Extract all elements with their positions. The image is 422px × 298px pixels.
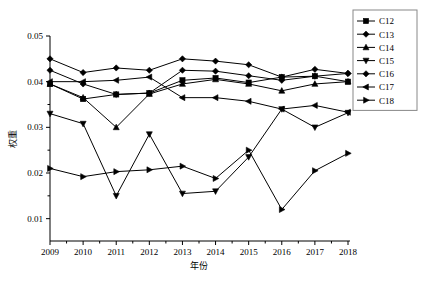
data-point-marker: [80, 69, 86, 75]
y-tick-label: 0.03: [27, 122, 43, 132]
series-line-c16: [50, 70, 348, 94]
series-c17: [47, 74, 351, 115]
data-point-marker: [146, 67, 152, 73]
data-point-marker: [80, 121, 86, 127]
x-tick-label: 2016: [273, 247, 292, 257]
data-point-marker: [212, 95, 218, 101]
series-line-c17: [50, 77, 348, 112]
chart-axes: [46, 36, 350, 245]
data-point-marker: [212, 58, 218, 64]
data-point-marker: [179, 191, 185, 197]
y-tick-label: 0.01: [27, 214, 43, 224]
data-point-marker: [113, 65, 119, 71]
x-tick-label: 2012: [140, 247, 158, 257]
data-point-marker: [81, 174, 87, 180]
x-tick-label: 2010: [74, 247, 93, 257]
x-axis-title: 年份: [190, 260, 208, 271]
data-point-marker: [179, 95, 185, 101]
series-line-c15: [50, 109, 348, 196]
data-point-marker: [114, 169, 120, 175]
data-point-marker: [47, 56, 53, 62]
data-point-marker: [146, 132, 152, 138]
legend-label: C12: [379, 16, 394, 26]
legend-label: C16: [379, 69, 395, 79]
line-chart: 0.010.020.030.040.0520092010201120122013…: [0, 0, 422, 298]
series-c18: [48, 147, 352, 212]
y-tick-label: 0.05: [27, 31, 43, 41]
legend-label: C14: [379, 43, 395, 53]
x-tick-label: 2009: [41, 247, 60, 257]
data-point-marker: [246, 147, 252, 153]
data-point-marker: [312, 102, 318, 108]
data-point-marker: [246, 73, 252, 79]
x-tick-label: 2011: [107, 247, 125, 257]
data-point-marker: [212, 68, 218, 74]
data-point-marker: [179, 67, 185, 73]
legend-label: C15: [379, 56, 395, 66]
legend-label: C17: [379, 82, 395, 92]
data-point-marker: [180, 163, 186, 169]
legend-label: C13: [379, 30, 395, 40]
x-tick-label: 2017: [306, 247, 325, 257]
data-point-marker: [179, 56, 185, 62]
series-line-c14: [50, 79, 348, 127]
x-tick-label: 2015: [240, 247, 259, 257]
x-tick-label: 2014: [207, 247, 226, 257]
series-c15: [47, 107, 351, 199]
data-point-marker: [113, 193, 119, 199]
x-tick-label: 2018: [339, 247, 358, 257]
series-line-c13: [50, 59, 348, 77]
data-point-marker: [245, 98, 251, 104]
data-point-marker: [312, 125, 318, 131]
data-point-marker: [246, 62, 252, 68]
chart-series-layer: [47, 56, 351, 213]
y-tick-label: 0.02: [27, 168, 43, 178]
chart-legend: C12C13C14C15C16C17C18: [353, 10, 417, 110]
data-point-marker: [146, 74, 152, 80]
data-point-marker: [113, 77, 119, 83]
data-point-marker: [345, 70, 351, 76]
x-tick-label: 2013: [173, 247, 192, 257]
data-point-marker: [312, 168, 318, 174]
series-line-c18: [50, 150, 348, 209]
chart-container: 0.010.020.030.040.0520092010201120122013…: [0, 0, 422, 298]
data-point-marker: [312, 66, 318, 72]
y-tick-label: 0.04: [27, 77, 43, 87]
data-point-marker: [346, 150, 352, 156]
axis-frame: [50, 36, 350, 241]
legend-label: C18: [379, 96, 395, 106]
data-point-marker: [363, 18, 368, 23]
data-point-marker: [47, 67, 53, 73]
data-point-marker: [147, 167, 153, 173]
y-axis-title: 权重: [7, 130, 18, 148]
